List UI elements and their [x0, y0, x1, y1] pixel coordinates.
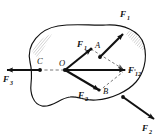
label-f1-external-sub: 1 [127, 15, 130, 21]
label-f1-external: F 1 [119, 9, 130, 21]
label-f1-component-base: F [76, 39, 83, 49]
label-f1-component-sub: 1 [84, 45, 87, 51]
label-f2-external-base: F [141, 123, 148, 133]
force-diagram-figure: F 1 F 1 F 2 F 2 F 3 F 12 A B C [0, 0, 165, 137]
force-diagram-canvas: F 1 F 1 F 2 F 2 F 3 F 12 A B C [0, 0, 165, 137]
label-point-b: B [103, 86, 108, 96]
point-a-application-dot [98, 55, 102, 59]
label-f2-component-sub: 2 [84, 96, 88, 102]
label-f2-external-sub: 2 [148, 129, 152, 135]
point-b-application-dot [121, 95, 125, 99]
point-a-dot [90, 48, 93, 51]
point-o-dot [63, 68, 67, 72]
label-point-c: C [37, 56, 43, 66]
label-f12-sub: 12 [135, 71, 141, 77]
label-f1-external-base: F [119, 9, 126, 19]
label-f3-sub: 3 [9, 80, 13, 86]
label-f12-base: F [127, 65, 134, 75]
label-f2-external: F 2 [141, 123, 152, 135]
label-f2-component-base: F [77, 90, 84, 100]
point-c-dot [38, 68, 42, 72]
label-point-a: A [94, 40, 101, 50]
label-f3: F 3 [2, 74, 13, 86]
label-f3-base: F [2, 74, 9, 84]
label-point-o: O [59, 58, 65, 68]
point-b-dot [98, 89, 101, 92]
vector-f2-external [123, 97, 154, 119]
